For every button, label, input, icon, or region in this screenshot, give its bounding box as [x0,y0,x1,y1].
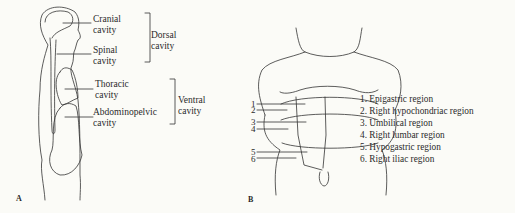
label-line: Cranial [93,14,121,25]
label-line: cavity [93,25,121,36]
spinal-cavity-label: Spinal cavity [93,45,117,67]
thoracic-cavity-label: Thoracic cavity [95,79,129,101]
label-line: cavity [151,41,176,52]
legend-item: 1. Epigastric region [360,93,474,105]
label-line: Thoracic [95,79,129,90]
label-line: Spinal [93,45,117,56]
region-number-2: 2 [251,106,256,115]
legend-item: 2. Right hypochondriac region [360,105,474,117]
panel-b-letter: B [248,195,253,204]
panel-a-letter: A [16,194,22,203]
legend-item: 6. Right iliac region [360,153,474,165]
label-line: cavity [93,56,117,67]
region-number-4: 4 [251,125,256,134]
legend-item: 5. Hypogastric region [360,141,474,153]
region-legend: 1. Epigastric region 2. Right hypochondr… [360,93,474,165]
sagittal-body-outline [39,7,82,200]
label-line: cavity [93,118,157,129]
dorsal-cavity-label: Dorsal cavity [151,30,176,52]
legend-item: 3. Umbilical region [360,117,474,129]
cranial-cavity-label: Cranial cavity [93,14,121,36]
label-line: Abdominopelvic [93,107,157,118]
ventral-cavity-label: Ventral cavity [178,95,205,117]
label-line: cavity [95,90,129,101]
abdominopelvic-cavity-label: Abdominopelvic cavity [93,107,157,129]
legend-item: 4. Right lumbar region [360,129,474,141]
label-line: cavity [178,106,205,117]
label-line: Dorsal [151,30,176,41]
label-line: Ventral [178,95,205,106]
region-number-6: 6 [251,155,256,164]
